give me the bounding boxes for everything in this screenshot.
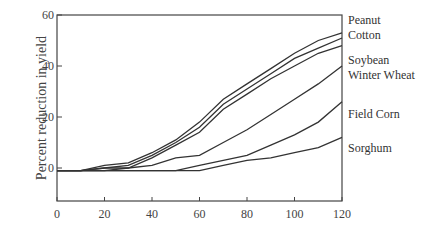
line-chart: 0204060801001200204060PeanutCottonSoybea…: [0, 0, 430, 239]
series-line-field-corn: [57, 102, 342, 171]
series-label-soybean: Soybean: [348, 53, 389, 67]
series-line-winter-wheat: [57, 66, 342, 171]
series-line-peanut: [57, 33, 342, 171]
y-tick-label: 0: [48, 161, 54, 175]
y-tick-label: 40: [42, 59, 54, 73]
x-tick-label: 20: [99, 207, 111, 221]
series-label-winter-wheat: Winter Wheat: [348, 68, 416, 82]
x-tick-label: 40: [146, 207, 158, 221]
series-label-cotton: Cotton: [348, 28, 381, 42]
series-label-field-corn: Field Corn: [348, 107, 400, 121]
series-line-cotton: [57, 38, 342, 171]
x-tick-label: 60: [194, 207, 206, 221]
x-tick-label: 100: [286, 207, 304, 221]
y-tick-label: 20: [42, 110, 54, 124]
y-tick-label: 60: [42, 8, 54, 22]
x-tick-label: 80: [241, 207, 253, 221]
plot-frame: [57, 15, 342, 201]
series-label-sorghum: Sorghum: [348, 141, 392, 155]
x-tick-label: 0: [54, 207, 60, 221]
series-label-peanut: Peanut: [348, 13, 381, 27]
x-tick-label: 120: [333, 207, 351, 221]
